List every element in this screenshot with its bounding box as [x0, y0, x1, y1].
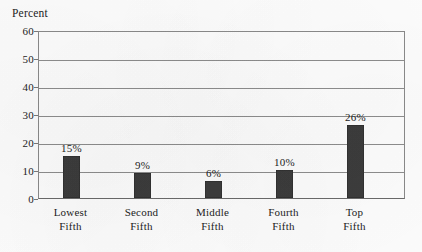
y-axis-title: Percent: [12, 7, 48, 20]
x-label-middle-fifth-line1: Middle: [190, 206, 235, 220]
x-label-lowest-fifth: Lowest Fifth: [48, 206, 93, 233]
gridline-40: [39, 88, 404, 89]
y-tick-label-10: 10: [10, 166, 34, 177]
x-label-middle-fifth: Middle Fifth: [190, 206, 235, 233]
x-label-middle-fifth-line2: Fifth: [190, 220, 235, 234]
y-tick-label-50: 50: [10, 54, 34, 65]
x-label-fourth-fifth-line2: Fifth: [261, 220, 306, 234]
x-label-fourth-fifth-line1: Fourth: [261, 206, 306, 220]
plot-area: 15% 9% 6% 10% 26%: [38, 31, 405, 199]
x-label-fourth-fifth: Fourth Fifth: [261, 206, 306, 233]
x-label-second-fifth-line1: Second: [119, 206, 164, 220]
y-tick-mark-0: [34, 199, 38, 200]
bar-value-lowest-fifth: 15%: [48, 143, 96, 154]
x-label-top-fifth-line1: Top: [332, 206, 377, 220]
x-label-second-fifth: Second Fifth: [119, 206, 164, 233]
bar-value-top-fifth: 26%: [332, 112, 380, 123]
x-label-top-fifth-line2: Fifth: [332, 220, 377, 234]
gridline-50: [39, 60, 404, 61]
bar-value-fourth-fifth: 10%: [261, 157, 309, 168]
bar-value-second-fifth: 9%: [119, 160, 167, 171]
bar-fourth-fifth: [276, 170, 293, 198]
chart-figure: Percent 60 50 40 30 20 10 0 15% 9% 6%: [0, 0, 422, 252]
bar-top-fifth: [347, 125, 364, 198]
y-tick-label-30: 30: [10, 110, 34, 121]
bar-lowest-fifth: [63, 156, 80, 198]
y-tick-label-20: 20: [10, 138, 34, 149]
bar-middle-fifth: [205, 181, 222, 198]
bar-value-middle-fifth: 6%: [190, 168, 238, 179]
y-tick-label-0: 0: [10, 194, 34, 205]
x-label-lowest-fifth-line1: Lowest: [48, 206, 93, 220]
x-label-top-fifth: Top Fifth: [332, 206, 377, 233]
x-label-lowest-fifth-line2: Fifth: [48, 220, 93, 234]
x-label-second-fifth-line2: Fifth: [119, 220, 164, 234]
y-tick-label-60: 60: [10, 26, 34, 37]
bar-second-fifth: [134, 173, 151, 198]
y-tick-label-40: 40: [10, 82, 34, 93]
